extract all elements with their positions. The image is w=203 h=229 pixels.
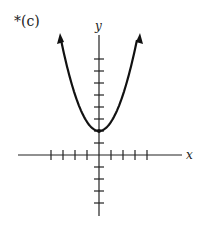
parabola-graph: x y bbox=[0, 0, 203, 229]
vertex-point bbox=[97, 129, 101, 133]
arrow-left-icon bbox=[57, 33, 64, 44]
x-axis-label: x bbox=[186, 148, 193, 162]
y-axis-label: y bbox=[94, 19, 102, 33]
